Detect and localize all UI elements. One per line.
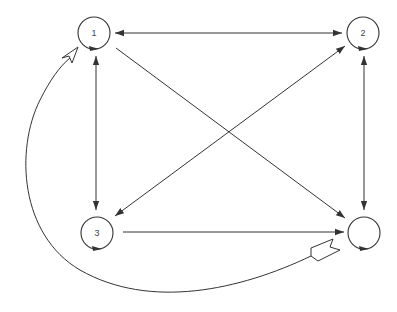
node-1[interactable]: 1 xyxy=(78,17,110,51)
edges xyxy=(26,33,364,292)
edge-2-3 xyxy=(115,46,345,216)
curved-edge-4-1 xyxy=(26,58,311,292)
edge-1-4 xyxy=(116,48,345,218)
graph-diagram: 1 2 3 xyxy=(0,0,397,312)
node-3-label: 3 xyxy=(94,228,99,238)
node-2[interactable]: 2 xyxy=(347,17,379,51)
open-arrowhead-icon xyxy=(62,47,78,63)
node-3[interactable]: 3 xyxy=(81,217,113,251)
node-4-circle xyxy=(348,217,380,249)
node-2-label: 2 xyxy=(360,28,365,38)
node-4[interactable] xyxy=(348,217,380,251)
node-1-label: 1 xyxy=(91,28,96,38)
fletch-tail-icon xyxy=(311,239,340,261)
